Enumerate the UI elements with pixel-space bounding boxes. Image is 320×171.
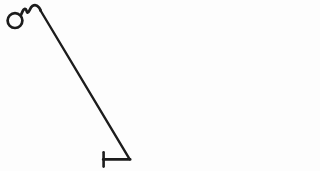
loop-circle-stroke (8, 13, 23, 28)
line-drawing-figure: Hand drawn symbol with a circular head, … (0, 0, 140, 171)
neck-curl-stroke (21, 5, 41, 15)
drawing-canvas: Hand drawn symbol with a circular head, … (0, 0, 140, 171)
diagonal-shaft-stroke (41, 11, 130, 160)
